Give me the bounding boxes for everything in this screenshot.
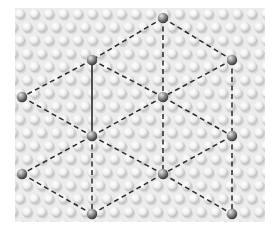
surface-atom [174, 114, 184, 124]
surface-atom [160, 220, 170, 230]
surface-atom [131, 62, 141, 72]
lattice-node [87, 131, 97, 141]
surface-atom [218, 141, 228, 151]
surface-atom [182, 22, 192, 32]
surface-atom [37, 48, 47, 58]
surface-atom [189, 9, 199, 19]
surface-atom [29, 194, 39, 204]
surface-atom [8, 180, 18, 190]
surface-atom [22, 75, 32, 85]
lattice-node [17, 92, 27, 102]
surface-atom [80, 75, 90, 85]
surface-atom [247, 35, 257, 45]
surface-atom [29, 88, 39, 98]
surface-atom [15, 9, 25, 19]
surface-atom [254, 207, 264, 217]
surface-atom [145, 62, 155, 72]
surface-atom [131, 141, 141, 151]
surface-atom [225, 22, 235, 32]
surface-atom [95, 22, 105, 32]
surface-atom [80, 154, 90, 164]
surface-atom [109, 48, 119, 58]
lattice-node [227, 209, 237, 219]
surface-atom [269, 22, 279, 32]
surface-atom [58, 220, 68, 230]
surface-atom [0, 141, 10, 151]
lattice-node [158, 13, 168, 23]
surface-atom [167, 48, 177, 58]
surface-atom [232, 9, 242, 19]
surface-atom [254, 154, 264, 164]
surface-atom [95, 101, 105, 111]
surface-atom [240, 48, 250, 58]
surface-atom [160, 114, 170, 124]
surface-atom [66, 128, 76, 138]
surface-atom [109, 180, 119, 190]
surface-atom [87, 9, 97, 19]
surface-atom [131, 220, 141, 230]
surface-atom [182, 207, 192, 217]
surface-atom [66, 48, 76, 58]
surface-atom [153, 128, 163, 138]
lattice-node [227, 131, 237, 141]
surface-atom [95, 75, 105, 85]
surface-atom [261, 62, 271, 72]
surface-atom [218, 114, 228, 124]
surface-atom [22, 22, 32, 32]
surface-atom [116, 62, 126, 72]
surface-atom [80, 101, 90, 111]
surface-atom [87, 220, 97, 230]
surface-atom [196, 101, 206, 111]
surface-atom [109, 128, 119, 138]
surface-atom [124, 207, 134, 217]
surface-atom [240, 101, 250, 111]
surface-atom [66, 75, 76, 85]
surface-atom [131, 194, 141, 204]
surface-atom [37, 75, 47, 85]
surface-atom [44, 220, 54, 230]
surface-atom [87, 35, 97, 45]
surface-atom [73, 220, 83, 230]
surface-atom [196, 207, 206, 217]
surface-atom [95, 180, 105, 190]
surface-atom [22, 128, 32, 138]
surface-atom [22, 180, 32, 190]
surface-atom [102, 220, 112, 230]
surface-atom [22, 48, 32, 58]
surface-atom [44, 35, 54, 45]
surface-atom [58, 9, 68, 19]
surface-atom [240, 180, 250, 190]
surface-atom [8, 22, 18, 32]
surface-atom [29, 220, 39, 230]
surface-atom [15, 141, 25, 151]
surface-atom [138, 154, 148, 164]
surface-atom [261, 114, 271, 124]
surface-atom [218, 167, 228, 177]
surface-atom [102, 167, 112, 177]
lattice-node [87, 209, 97, 219]
surface-atom [8, 207, 18, 217]
surface-atom [203, 88, 213, 98]
surface-atom [51, 180, 61, 190]
surface-atom [247, 141, 257, 151]
surface-atom [131, 167, 141, 177]
surface-atom [211, 180, 221, 190]
surface-atom [73, 88, 83, 98]
surface-atom [218, 62, 228, 72]
surface-atom [131, 88, 141, 98]
surface-atom [73, 167, 83, 177]
surface-atom [73, 194, 83, 204]
surface-atom [218, 9, 228, 19]
surface-atom [240, 154, 250, 164]
surface-atom [240, 128, 250, 138]
surface-atom [145, 114, 155, 124]
surface-atom [261, 220, 271, 230]
surface-atom [232, 194, 242, 204]
surface-atom [37, 154, 47, 164]
surface-atom [51, 101, 61, 111]
surface-atom [211, 128, 221, 138]
surface-atom [138, 207, 148, 217]
surface-atom [8, 101, 18, 111]
surface-atom [116, 88, 126, 98]
surface-atom [232, 141, 242, 151]
